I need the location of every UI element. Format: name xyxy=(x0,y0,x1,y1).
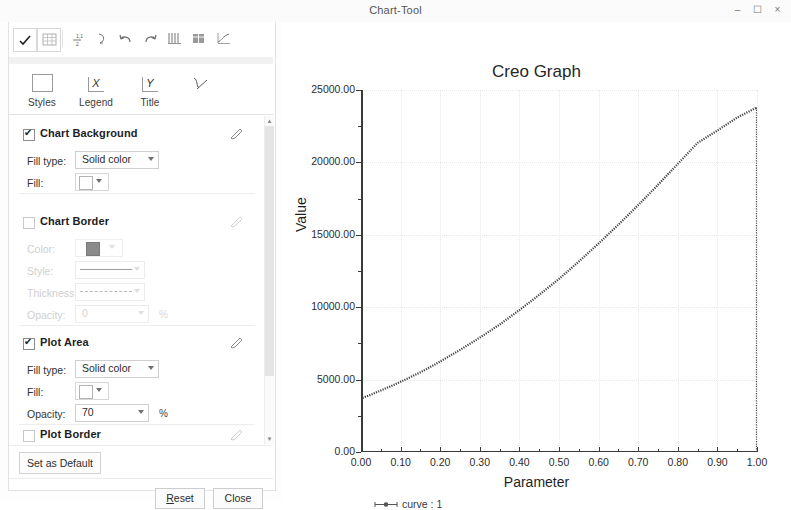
x-tick xyxy=(401,447,402,452)
plot-area-header: Plot Area xyxy=(9,336,261,354)
panel-tabs: Styles X Legend Y Title xyxy=(9,62,273,115)
scroll-up-arrow-icon[interactable]: ▲ xyxy=(265,116,274,126)
close-button[interactable]: Close xyxy=(213,488,263,509)
section-plot-border: Plot Border xyxy=(9,428,261,445)
y-tick xyxy=(356,162,361,163)
redo-icon[interactable] xyxy=(139,28,161,50)
chart-legend[interactable]: curve : 1 xyxy=(374,498,442,510)
chart-border-header: Chart Border xyxy=(9,215,261,233)
chevron-down-icon xyxy=(109,245,115,249)
y-tick-label: 10000.00 xyxy=(311,300,355,312)
chart-title: Creo Graph xyxy=(282,62,791,82)
reset-mnemonic: R xyxy=(166,492,174,504)
x-tick-minor xyxy=(579,449,580,452)
border-opacity-select[interactable]: 0 xyxy=(75,305,149,323)
panel-toolbar: 1,1 2 xyxy=(9,26,273,54)
window-controls: – ☐ × xyxy=(732,5,783,15)
scroll-down-arrow-icon[interactable]: ▼ xyxy=(265,434,274,444)
plot-fill-label: Fill: xyxy=(27,386,43,398)
maximize-icon[interactable]: ☐ xyxy=(752,5,763,15)
border-thickness-select[interactable] xyxy=(75,283,145,301)
x-tick-label: 0.10 xyxy=(390,456,410,468)
data-table-icon[interactable] xyxy=(188,28,210,50)
sort-ascending-icon[interactable]: 1,1 2 xyxy=(66,28,88,50)
plot-opacity-select[interactable]: 70 xyxy=(75,404,149,422)
edit-pencil-icon[interactable] xyxy=(229,428,245,442)
edit-pencil-icon[interactable] xyxy=(229,127,245,141)
tab-curve[interactable] xyxy=(173,62,227,112)
window-title: Chart-Tool xyxy=(0,4,791,16)
y-tick xyxy=(356,380,361,381)
fill-label: Fill: xyxy=(27,177,43,189)
edit-pencil-icon[interactable] xyxy=(229,336,245,350)
plot-fill-type-select[interactable]: Solid color xyxy=(75,360,159,378)
apply-check-icon[interactable] xyxy=(13,28,37,52)
x-tick-label: 0.60 xyxy=(588,456,608,468)
x-tick-minor xyxy=(420,449,421,452)
chevron-down-icon xyxy=(148,366,154,370)
scrollbar-thumb[interactable] xyxy=(265,126,274,376)
y-axis-icon: Y xyxy=(123,62,177,92)
x-tick-minor xyxy=(460,449,461,452)
section-plot-area: Plot Area Fill type: Solid color Fill: xyxy=(9,336,261,426)
chevron-down-icon xyxy=(148,157,154,161)
y-tick xyxy=(356,452,361,453)
row-border-opacity: Opacity: 0 % xyxy=(9,305,261,327)
undo-icon[interactable] xyxy=(115,28,137,50)
y-tick-label: 0.00 xyxy=(335,445,355,457)
grid-table-icon[interactable] xyxy=(37,28,61,52)
chart-border-checkbox[interactable] xyxy=(23,217,35,229)
plot-area-checkbox[interactable] xyxy=(23,338,35,350)
plot-area[interactable]: 0.000.100.200.300.400.500.600.700.800.90… xyxy=(361,90,757,452)
panel-scroll-content: Chart Background Fill type: Solid color … xyxy=(9,115,273,445)
fill-type-select[interactable]: Solid color xyxy=(75,151,159,169)
y-axis-title: Value xyxy=(293,197,309,232)
tab-title[interactable]: Y Title xyxy=(123,62,177,112)
plot-border-checkbox[interactable] xyxy=(23,430,35,442)
border-thickness-label: Thickness: xyxy=(27,287,77,299)
fill-color-picker[interactable] xyxy=(75,173,109,191)
x-tick-label: 0.70 xyxy=(628,456,648,468)
chart-border-title: Chart Border xyxy=(40,215,109,227)
tab-styles[interactable]: Styles xyxy=(15,62,69,112)
tab-legend-label: Legend xyxy=(69,97,123,108)
edit-pencil-icon[interactable] xyxy=(229,215,245,229)
x-tick-minor xyxy=(618,449,619,452)
plot-fill-type-value: Solid color xyxy=(82,362,131,374)
x-tick-label: 1.00 xyxy=(747,456,767,468)
color-swatch xyxy=(79,176,93,190)
plot-fill-type-label: Fill type: xyxy=(27,364,66,376)
border-style-select[interactable] xyxy=(75,261,145,279)
row-border-thickness: Thickness: xyxy=(9,283,261,305)
close-icon[interactable]: × xyxy=(772,5,783,15)
chevron-down-icon xyxy=(138,311,144,315)
x-tick xyxy=(599,447,600,452)
chevron-down-icon xyxy=(134,289,140,293)
plot-opacity-unit: % xyxy=(159,408,168,419)
panel-divider xyxy=(9,445,273,446)
chart-background-title: Chart Background xyxy=(40,127,138,139)
styles-panel: 1,1 2 xyxy=(8,22,276,491)
x-tick-minor xyxy=(500,449,501,452)
y-tick-label: 5000.00 xyxy=(317,373,355,385)
x-tick-label: 0.20 xyxy=(430,456,450,468)
x-tick-minor xyxy=(658,449,659,452)
y-axis xyxy=(361,90,363,452)
y-tick-label: 25000.00 xyxy=(311,83,355,95)
x-tick-minor xyxy=(737,449,738,452)
chart-background-checkbox[interactable] xyxy=(23,129,35,141)
set-as-default-button[interactable]: Set as Default xyxy=(19,452,101,474)
series-curve-1 xyxy=(361,90,757,452)
row-border-style: Style: xyxy=(9,261,261,283)
column-chart-icon[interactable] xyxy=(164,28,186,50)
section-chart-border: Chart Border Color: Style: xyxy=(9,215,261,327)
minimize-icon[interactable]: – xyxy=(732,5,743,15)
border-color-picker[interactable] xyxy=(75,239,123,257)
curve-icon xyxy=(173,62,227,92)
chart-preview-icon[interactable] xyxy=(213,28,235,50)
reset-button[interactable]: Reset xyxy=(155,488,205,509)
tab-legend[interactable]: X Legend xyxy=(69,62,123,112)
curve-edit-icon[interactable] xyxy=(91,28,113,50)
plot-fill-color-picker[interactable] xyxy=(75,382,109,400)
